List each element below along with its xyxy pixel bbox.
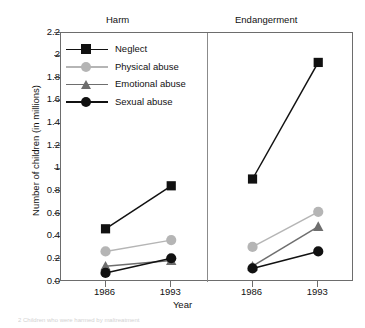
y-tick-label: 0.8: [8, 184, 60, 195]
legend-label: Physical abuse: [115, 60, 179, 74]
y-tick-label: 0.0: [8, 275, 60, 286]
y-tick-label: 2: [8, 48, 60, 59]
data-point: [166, 235, 176, 245]
x-tick-label: 1993: [150, 286, 190, 297]
legend-label: Sexual abuse: [115, 95, 173, 109]
y-tick-label: 1.2: [8, 139, 60, 150]
y-tick-label: 1: [8, 161, 60, 172]
legend-marker-triangle-icon: [81, 80, 91, 89]
series-line: [106, 186, 172, 229]
legend-item: Neglect: [66, 42, 186, 56]
data-point: [100, 268, 110, 278]
y-tick-label: 1.8: [8, 71, 60, 82]
data-point: [248, 174, 257, 183]
figure: Harm Endangerment Number of children (in…: [0, 0, 365, 328]
series-line: [253, 212, 319, 247]
legend-item: Emotional abuse: [66, 77, 186, 91]
legend-item: Sexual abuse: [66, 95, 186, 109]
legend-item: Physical abuse: [66, 60, 186, 74]
data-point: [313, 207, 323, 217]
legend-marker-square-icon: [81, 44, 91, 54]
y-axis: 0.00.20.40.60.811.21.41.61.822.2: [0, 0, 60, 328]
series-line: [106, 240, 172, 251]
y-tick-label: 0.6: [8, 207, 60, 218]
data-point: [167, 181, 176, 190]
panel-title-harm: Harm: [106, 14, 129, 25]
data-point: [100, 246, 110, 256]
x-tick-label: 1986: [232, 286, 272, 297]
legend-marker-circle-icon: [81, 62, 91, 72]
y-tick-label: 2.2: [8, 26, 60, 37]
legend-label: Neglect: [115, 42, 147, 56]
data-point: [313, 246, 323, 256]
panel-divider: [207, 33, 208, 282]
data-point: [101, 224, 110, 233]
panel-title-endangerment: Endangerment: [235, 14, 297, 25]
figure-caption: 2 Children who were harmed by maltreatme…: [18, 317, 358, 323]
x-tick-label: 1993: [297, 286, 337, 297]
x-axis-label: Year: [0, 299, 365, 310]
y-tick-label: 0.4: [8, 229, 60, 240]
legend-swatch: [66, 95, 108, 109]
series-line: [253, 62, 319, 179]
legend-swatch: [66, 77, 108, 91]
data-point: [166, 253, 176, 263]
chart-legend: NeglectPhysical abuseEmotional abuseSexu…: [66, 42, 186, 112]
y-tick-label: 1.4: [8, 116, 60, 127]
y-tick-label: 0.2: [8, 252, 60, 263]
legend-swatch: [66, 42, 108, 56]
data-point: [247, 263, 257, 273]
legend-label: Emotional abuse: [115, 77, 186, 91]
data-point: [314, 58, 323, 67]
y-tick-label: 1.6: [8, 93, 60, 104]
legend-swatch: [66, 60, 108, 74]
data-point: [247, 242, 257, 252]
x-tick-label: 1986: [85, 286, 125, 297]
data-point: [313, 221, 323, 231]
legend-marker-circle-icon: [81, 97, 91, 107]
